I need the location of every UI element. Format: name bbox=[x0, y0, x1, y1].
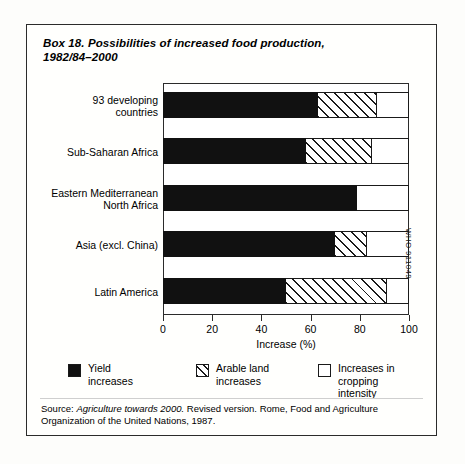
bar-segment bbox=[163, 185, 357, 211]
stacked-bar bbox=[163, 138, 409, 164]
category-label: Latin America bbox=[30, 286, 158, 299]
legend-label: Arable land increases bbox=[216, 362, 269, 387]
x-axis-tick-label: 60 bbox=[305, 323, 317, 335]
legend-item: Yield increases bbox=[68, 362, 133, 387]
bar-row bbox=[163, 129, 409, 175]
stacked-bar bbox=[163, 185, 409, 211]
bar-segment bbox=[377, 92, 409, 118]
bar-row bbox=[163, 83, 409, 129]
bar-segment bbox=[335, 231, 367, 257]
who-reference-code: WHO 911049 bbox=[404, 228, 413, 279]
x-axis-tick-label: 80 bbox=[354, 323, 366, 335]
x-axis-tick bbox=[163, 315, 164, 321]
x-axis-tick bbox=[311, 315, 312, 321]
bar-row bbox=[163, 269, 409, 315]
source-title: Agriculture towards 2000. bbox=[76, 403, 184, 414]
chart-legend: Yield increasesArable land increasesIncr… bbox=[68, 362, 418, 396]
category-axis-labels: 93 developingcountriesSub-Saharan Africa… bbox=[30, 83, 158, 315]
legend-swatch bbox=[196, 364, 209, 377]
category-label: Asia (excl. China) bbox=[30, 239, 158, 252]
legend-swatch bbox=[318, 364, 331, 377]
bar-segment bbox=[372, 138, 409, 164]
bars-container bbox=[163, 83, 409, 315]
bar-segment bbox=[387, 278, 409, 304]
legend-item: Arable land increases bbox=[196, 362, 269, 387]
legend-label: Yield increases bbox=[88, 362, 133, 387]
category-label: Sub-Saharan Africa bbox=[30, 146, 158, 159]
legend-label: Increases in cropping intensity bbox=[338, 362, 418, 400]
x-axis-tick-label: 20 bbox=[206, 323, 218, 335]
category-label: Eastern MediterraneanNorth Africa bbox=[30, 187, 158, 212]
bar-row bbox=[163, 222, 409, 268]
bar-segment bbox=[286, 278, 387, 304]
box-title: Box 18. Possibilities of increased food … bbox=[43, 36, 383, 64]
x-axis-tick-label: 40 bbox=[256, 323, 268, 335]
stacked-bar bbox=[163, 278, 409, 304]
category-label-line: North Africa bbox=[30, 199, 158, 212]
source-note: Source: Agriculture towards 2000. Revise… bbox=[41, 403, 425, 427]
category-label: 93 developingcountries bbox=[30, 94, 158, 119]
bar-segment bbox=[163, 231, 335, 257]
bar-segment bbox=[306, 138, 372, 164]
category-label-line: Eastern Mediterranean bbox=[30, 187, 158, 200]
x-axis-tick bbox=[212, 315, 213, 321]
category-label-line: Sub-Saharan Africa bbox=[30, 146, 158, 159]
box-title-line-2: 1982/84–2000 bbox=[43, 50, 383, 64]
category-label-line: 93 developing bbox=[30, 94, 158, 107]
legend-swatch bbox=[68, 364, 81, 377]
bar-segment bbox=[163, 278, 286, 304]
x-axis-tick bbox=[409, 315, 410, 321]
bar-segment bbox=[163, 92, 318, 118]
x-axis-tick-label: 100 bbox=[400, 323, 418, 335]
x-axis-title: Increase (%) bbox=[163, 338, 409, 350]
bar-segment bbox=[367, 231, 409, 257]
chart-plot-area bbox=[163, 83, 409, 315]
stacked-bar bbox=[163, 231, 409, 257]
x-axis-tick-label: 0 bbox=[160, 323, 166, 335]
x-axis-tick bbox=[360, 315, 361, 321]
stacked-bar bbox=[163, 92, 409, 118]
box-title-line-1: Box 18. Possibilities of increased food … bbox=[43, 37, 325, 49]
bar-segment bbox=[318, 92, 377, 118]
category-label-line: Asia (excl. China) bbox=[30, 239, 158, 252]
category-label-line: countries bbox=[30, 106, 158, 119]
bar-row bbox=[163, 176, 409, 222]
bar-segment bbox=[357, 185, 409, 211]
x-axis-tick bbox=[261, 315, 262, 321]
bar-segment bbox=[163, 138, 306, 164]
category-label-line: Latin America bbox=[30, 286, 158, 299]
legend-item: Increases in cropping intensity bbox=[318, 362, 418, 400]
source-prefix: Source: bbox=[41, 403, 76, 414]
source-divider bbox=[40, 398, 423, 399]
box-figure-page: Box 18. Possibilities of increased food … bbox=[0, 0, 465, 464]
